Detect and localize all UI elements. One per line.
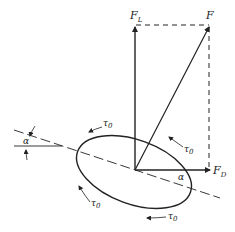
airfoil-force-diagram: FL F FD α α τ0 τ0 τ0 τ0 xyxy=(0,0,235,232)
shear-label-bottom: τ0 xyxy=(168,211,178,223)
resultant-label: F xyxy=(205,9,214,22)
resultant-force-arrow xyxy=(135,27,209,170)
angle-label-right: α xyxy=(178,172,184,182)
shear-label-right: τ0 xyxy=(184,144,194,156)
angle-label-left: α xyxy=(23,136,29,146)
lift-label: FL xyxy=(129,9,143,24)
chord-line xyxy=(14,130,220,198)
drag-label: FD xyxy=(212,164,227,179)
shear-label-bottom-left: τ0 xyxy=(91,198,101,210)
shear-label-top: τ0 xyxy=(103,118,113,130)
